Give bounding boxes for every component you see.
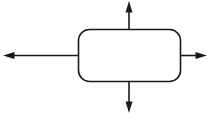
arrow-up — [126, 1, 133, 30]
arrow-left-head — [3, 52, 15, 59]
arrow-left — [3, 52, 79, 59]
arrow-down-head — [126, 102, 133, 114]
arrow-up-head — [126, 1, 133, 13]
diagram-canvas — [0, 0, 214, 121]
arrow-right — [180, 52, 207, 59]
arrow-right-head — [196, 52, 208, 59]
diagram-svg — [0, 0, 214, 121]
central-node — [79, 30, 181, 82]
arrow-down — [126, 81, 133, 113]
